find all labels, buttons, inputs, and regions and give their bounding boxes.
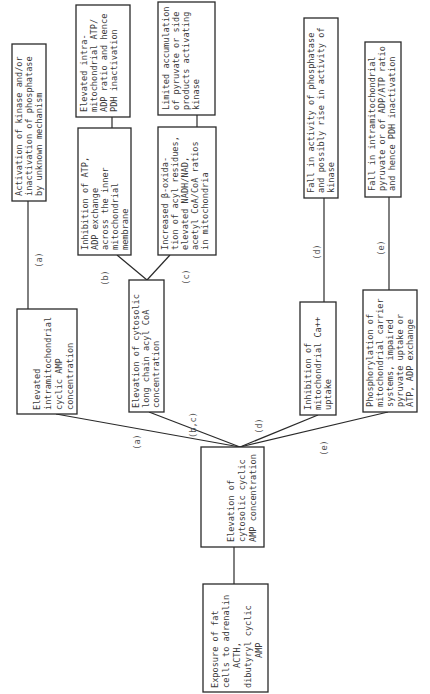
svg-text:ACTH,: ACTH, (232, 642, 242, 668)
svg-text:Elevation of cytosolic: Elevation of cytosolic (131, 294, 141, 408)
svg-text:mitochondrial carrier: mitochondrial carrier (375, 298, 385, 407)
svg-text:tion of acyl residues,: tion of acyl residues, (170, 136, 180, 250)
svg-text:acetyl CoA/CoA ratios: acetyl CoA/CoA ratios (190, 141, 200, 250)
node-phosphorylation: Phosphorylation of mitochondrial carrier… (363, 290, 417, 412)
svg-text:Phosphorylation of: Phosphorylation of (365, 314, 375, 407)
svg-text:ATP, ADP exchange: ATP, ADP exchange (405, 319, 415, 407)
edge-label-bc: (b,c) (188, 412, 198, 438)
edge-label-a-lower: (a) (132, 434, 142, 450)
svg-text:ADP exchange: ADP exchange (90, 188, 100, 250)
svg-text:intramitochondrial: intramitochondrial (43, 317, 53, 410)
svg-text:mitochondrial Ca++: mitochondrial Ca++ (313, 317, 323, 410)
svg-text:of pyruvate or side: of pyruvate or side (171, 12, 181, 110)
edge-a-to-intramito-camp (56, 414, 240, 447)
svg-text:and possibly rise in activity: and possibly rise in activity of (316, 27, 326, 193)
svg-text:mitochondrial ATP/: mitochondrial ATP/ (89, 19, 99, 112)
svg-text:Inhibition of ATP,: Inhibition of ATP, (80, 157, 90, 250)
svg-text:PDH inactivation: PDH inactivation (109, 29, 119, 112)
svg-text:Activation of kinase and/or: Activation of kinase and/or (14, 56, 24, 196)
svg-text:concentration: concentration (65, 343, 75, 410)
svg-text:pyruvate or of ADP/ATP ratio: pyruvate or of ADP/ATP ratio (377, 46, 387, 191)
svg-text:by unknown mechanism: by unknown mechanism (34, 93, 44, 196)
svg-text:in mitochondria: in mitochondria (200, 172, 210, 250)
svg-text:cytosolic cyclic: cytosolic cyclic (237, 459, 247, 542)
svg-text:Limited accumulation: Limited accumulation (161, 7, 171, 110)
svg-text:elevated NADH/NAD,: elevated NADH/NAD, (180, 157, 190, 250)
node-kinase-activation: Activation of kinase and/or inactivation… (12, 44, 46, 201)
svg-text:Exposure of fat: Exposure of fat (210, 610, 220, 688)
svg-text:cells to adrenalin: cells to adrenalin (221, 595, 231, 688)
svg-text:mitochondrial: mitochondrial (110, 183, 120, 250)
edge-label-e-lower: (e) (319, 440, 329, 456)
node-pyruvate-fall: Fall in intramitochondrial pyruvate or o… (365, 42, 401, 197)
node-exposure: Exposure of fat cells to adrenalin ACTH,… (203, 584, 268, 692)
svg-text:uptake: uptake (323, 379, 333, 410)
flowchart-diagram: (a) (a) (b,c) (b) (c) (d) (d) (e) (e) Ex… (0, 0, 430, 694)
svg-text:pyruvate uptake or: pyruvate uptake or (395, 314, 405, 407)
svg-text:Inhibition of: Inhibition of (303, 343, 313, 410)
svg-text:AMP concentration: AMP concentration (248, 454, 258, 542)
edge-label-e-upper: (e) (376, 240, 386, 256)
svg-text:Fall in activity of phosphatas: Fall in activity of phosphatase (306, 33, 316, 193)
node-phosphatase-fall: Fall in activity of phosphatase and poss… (304, 18, 338, 198)
svg-text:across the inner: across the inner (100, 167, 110, 250)
svg-text:products activating: products activating (181, 12, 191, 110)
svg-text:long chain acyl CoA: long chain acyl CoA (141, 309, 151, 408)
edge-label-d-lower: (d) (254, 418, 264, 434)
edge-label-d-upper: (d) (312, 244, 322, 260)
node-intramito-camp: Elevated intramitochondrial cyclic AMP c… (17, 309, 77, 414)
node-pyruvate-accumulation: Limited accumulation of pyruvate or side… (158, 2, 215, 115)
svg-text:Fall in intramitochondrial: Fall in intramitochondrial (367, 56, 377, 191)
node-acyl-coa: Elevation of cytosolic long chain acyl C… (129, 280, 164, 412)
node-beta-oxidation: Increased β-oxida- tion of acyl residues… (158, 127, 216, 255)
svg-text:and hence PDH inactivation: and hence PDH inactivation (387, 56, 397, 191)
edge-c-to-beta-oxidation (147, 255, 170, 280)
edge-b-to-atp-adp-inhibition (117, 255, 147, 280)
node-cytosolic-camp: Elevation of cytosolic cyclic AMP concen… (201, 447, 264, 547)
svg-text:dibutyryl cyclic: dibutyryl cyclic (243, 605, 253, 688)
svg-text:inactivation of phosphatase: inactivation of phosphatase (24, 56, 34, 196)
svg-text:cyclic AMP: cyclic AMP (54, 358, 64, 410)
svg-text:ADP ratio and hence: ADP ratio and hence (99, 14, 109, 112)
edge-label-a-upper: (a) (34, 252, 44, 268)
svg-text:kinase: kinase (326, 162, 336, 193)
edge-label-c: (c) (181, 269, 191, 285)
svg-text:systems, impaired: systems, impaired (385, 319, 395, 407)
node-atp-adp-ratio: Elevated intra- mitochondrial ATP/ ADP r… (76, 5, 130, 117)
node-atp-adp-inhibition: Inhibition of ATP, ADP exchange across t… (78, 128, 131, 255)
node-ca-uptake: Inhibition of mitochondrial Ca++ uptake (300, 302, 336, 415)
svg-text:Elevated intra-: Elevated intra- (79, 34, 89, 112)
svg-text:Elevated: Elevated (32, 369, 42, 410)
svg-text:Increased β-oxida-: Increased β-oxida- (160, 157, 170, 250)
edge-label-b: (b) (100, 270, 110, 286)
svg-text:membrane: membrane (120, 209, 130, 250)
svg-text:Elevation of: Elevation of (226, 480, 236, 542)
svg-text:AMP: AMP (254, 642, 264, 658)
svg-text:concentration: concentration (151, 341, 161, 408)
svg-text:kinase: kinase (191, 79, 201, 110)
